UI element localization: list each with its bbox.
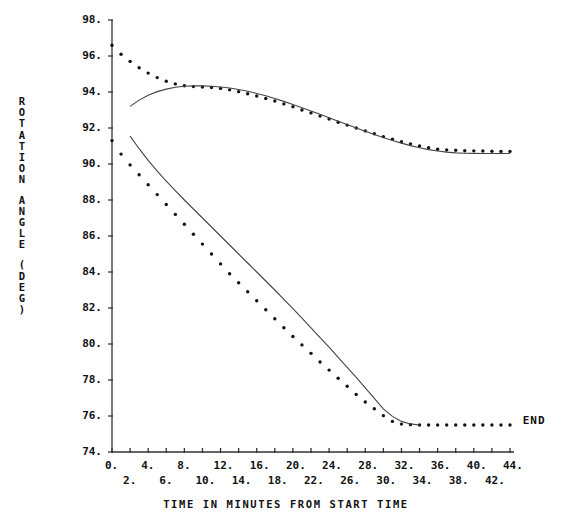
x-tick-label-row1: 12. — [214, 460, 234, 471]
data-point — [128, 60, 131, 63]
y-tick-label: 82. — [68, 302, 102, 313]
y-tick-label: 74. — [68, 446, 102, 457]
data-point — [174, 213, 177, 216]
data-point — [436, 423, 439, 426]
data-point — [327, 368, 330, 371]
data-point — [156, 193, 159, 196]
data-point — [255, 299, 258, 302]
y-tick-label: 90. — [68, 158, 102, 169]
y-tick-label: 98. — [68, 14, 102, 25]
x-tick-label-row1: 24. — [322, 460, 342, 471]
x-tick-label-row2: 10. — [195, 475, 215, 486]
rotation-angle-vs-time-chart: ROTATIONANGLE(DEG) TIME IN MINUTES FROM … — [0, 0, 572, 524]
data-point — [201, 242, 204, 245]
lower-measured-points — [110, 139, 511, 427]
data-point — [137, 66, 140, 69]
data-point — [282, 102, 285, 105]
data-point — [445, 148, 448, 151]
data-point — [110, 44, 113, 47]
data-point — [156, 76, 159, 79]
data-point — [300, 108, 303, 111]
data-point — [472, 149, 475, 152]
data-point — [273, 99, 276, 102]
data-point — [192, 233, 195, 236]
y-tick-label: 88. — [68, 194, 102, 205]
data-point — [318, 360, 321, 363]
y-tick-label: 76. — [68, 410, 102, 421]
y-tick-label: 92. — [68, 122, 102, 133]
data-point — [499, 423, 502, 426]
data-point — [391, 420, 394, 423]
upper-measured-points — [110, 44, 511, 154]
data-point — [119, 152, 122, 155]
end-annotation-label: END — [523, 414, 546, 427]
x-tick-label-row2: 18. — [268, 475, 288, 486]
data-point — [481, 423, 484, 426]
data-point — [219, 262, 222, 265]
data-point — [454, 149, 457, 152]
x-tick-label-row1: 0. — [105, 460, 118, 471]
x-tick-label-row2: 6. — [159, 475, 172, 486]
data-point — [291, 105, 294, 108]
data-point — [128, 163, 131, 166]
x-tick-label-row2: 34. — [413, 475, 433, 486]
data-point — [228, 272, 231, 275]
y-tick-label: 80. — [68, 338, 102, 349]
data-point — [355, 393, 358, 396]
data-point — [210, 252, 213, 255]
x-tick-label-row2: 26. — [340, 475, 360, 486]
data-point — [499, 150, 502, 153]
data-point — [472, 423, 475, 426]
data-point — [146, 183, 149, 186]
data-point — [183, 223, 186, 226]
x-tick-label-row2: 30. — [376, 475, 396, 486]
x-tick-label-row1: 40. — [467, 460, 487, 471]
data-point — [273, 317, 276, 320]
y-tick-label: 94. — [68, 86, 102, 97]
x-axis-title: TIME IN MINUTES FROM START TIME — [0, 498, 572, 510]
x-tick-label-row2: 38. — [449, 475, 469, 486]
data-point — [373, 407, 376, 410]
data-point — [291, 335, 294, 338]
data-point — [165, 203, 168, 206]
data-point — [246, 290, 249, 293]
data-point — [237, 281, 240, 284]
data-point — [454, 423, 457, 426]
data-point — [300, 343, 303, 346]
y-tick-label: 84. — [68, 266, 102, 277]
x-tick-label-row1: 36. — [431, 460, 451, 471]
data-point — [445, 423, 448, 426]
data-point — [282, 326, 285, 329]
data-point — [264, 308, 267, 311]
data-point — [364, 400, 367, 403]
data-point — [463, 423, 466, 426]
data-point — [481, 149, 484, 152]
x-tick-label-row1: 20. — [286, 460, 306, 471]
data-point — [345, 385, 348, 388]
data-point — [463, 149, 466, 152]
x-tick-label-row2: 42. — [485, 475, 505, 486]
data-point — [508, 423, 511, 426]
data-point — [137, 173, 140, 176]
data-point — [309, 352, 312, 355]
x-tick-label-row1: 28. — [358, 460, 378, 471]
data-point — [255, 94, 258, 97]
x-tick-label-row2: 2. — [123, 475, 136, 486]
y-tick-label: 78. — [68, 374, 102, 385]
data-point — [246, 92, 249, 95]
data-point — [165, 80, 168, 83]
x-tick-label-row1: 44. — [503, 460, 523, 471]
data-point — [174, 82, 177, 85]
y-tick-label: 96. — [68, 50, 102, 61]
data-point — [382, 414, 385, 417]
x-tick-label-row2: 14. — [232, 475, 252, 486]
x-tick-label-row1: 4. — [141, 460, 154, 471]
x-tick-label-row1: 32. — [394, 460, 414, 471]
data-point — [490, 423, 493, 426]
lower-fitted-curve — [130, 136, 419, 425]
data-point — [237, 90, 240, 93]
x-tick-label-row2: 22. — [304, 475, 324, 486]
data-point — [264, 97, 267, 100]
data-point — [508, 150, 511, 153]
data-point — [110, 139, 113, 142]
